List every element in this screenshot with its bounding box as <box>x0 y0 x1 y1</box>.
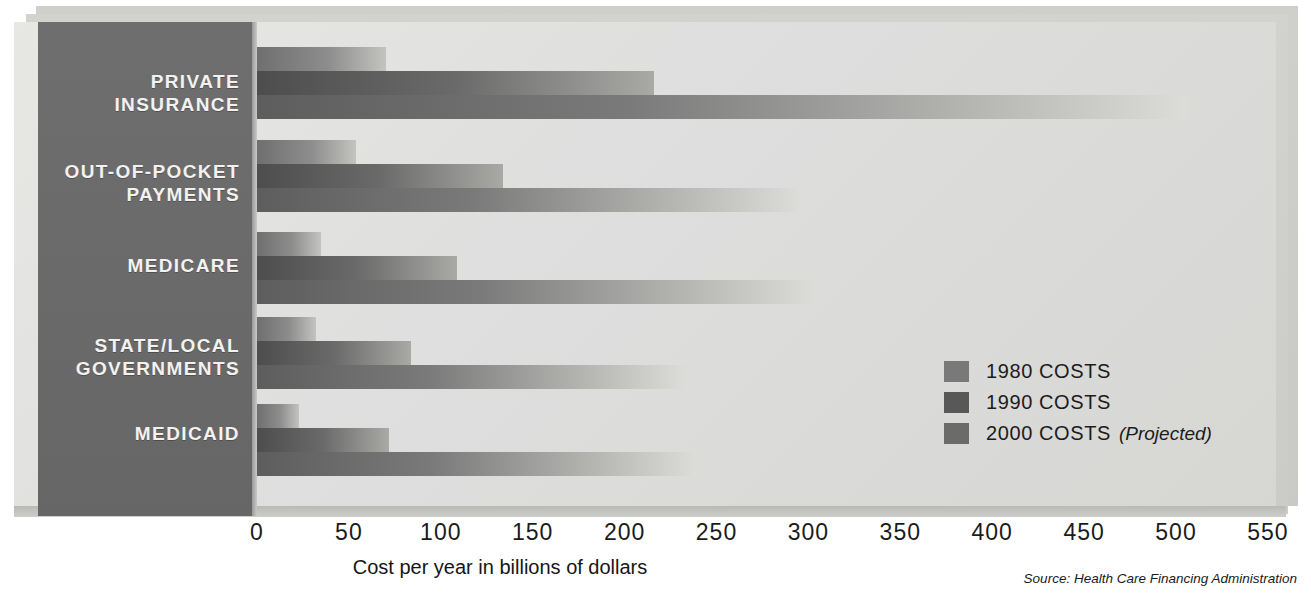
category-label-line2: INSURANCE <box>114 93 240 116</box>
legend-item-1980: 1980 COSTS <box>944 356 1212 387</box>
x-tick-400: 400 <box>972 519 1013 546</box>
x-tick-250: 250 <box>696 519 737 546</box>
category-label-0: PRIVATEINSURANCE <box>114 70 240 116</box>
legend-label-2000: 2000 COSTS <box>986 422 1111 445</box>
category-label-line1: MEDICARE <box>127 254 240 277</box>
category-label-line2: PAYMENTS <box>65 183 240 206</box>
bar-3-1 <box>257 341 411 365</box>
bar-2-1 <box>257 256 457 280</box>
x-tick-300: 300 <box>788 519 829 546</box>
bar-1-2 <box>257 188 799 212</box>
x-tick-150: 150 <box>512 519 553 546</box>
bar-4-0 <box>257 404 299 428</box>
x-tick-500: 500 <box>1155 519 1196 546</box>
legend-swatch-1990-icon <box>944 392 969 413</box>
x-axis-title: Cost per year in billions of dollars <box>0 556 1000 579</box>
bar-1-1 <box>257 164 503 188</box>
bar-3-2 <box>257 365 685 389</box>
category-label-4: MEDICAID <box>135 422 240 445</box>
x-tick-0: 0 <box>250 519 264 546</box>
chart-container: PRIVATEINSURANCEOUT-OF-POCKETPAYMENTSMED… <box>0 0 1311 607</box>
legend-item-1990: 1990 COSTS <box>944 387 1212 418</box>
category-label-2: MEDICARE <box>127 254 240 277</box>
bar-2-2 <box>257 280 814 304</box>
category-label-line1: OUT-OF-POCKET <box>65 160 240 183</box>
legend-note-projected: (Projected) <box>1119 423 1212 445</box>
legend-swatch-2000-icon <box>944 423 969 444</box>
bar-4-2 <box>257 452 696 476</box>
x-tick-450: 450 <box>1063 519 1104 546</box>
bar-3-0 <box>257 317 316 341</box>
x-axis: 050100150200250300350400450500550 <box>0 519 1311 553</box>
legend-item-2000: 2000 COSTS (Projected) <box>944 418 1212 449</box>
source-note: Source: Health Care Financing Administra… <box>1024 571 1297 586</box>
legend-label-1990: 1990 COSTS <box>986 391 1111 414</box>
category-label-line2: GOVERNMENTS <box>76 357 240 380</box>
legend-swatch-1980-icon <box>944 361 969 382</box>
legend: 1980 COSTS 1990 COSTS 2000 COSTS (Projec… <box>944 356 1212 449</box>
bar-0-1 <box>257 71 654 95</box>
category-label-panel: PRIVATEINSURANCEOUT-OF-POCKETPAYMENTSMED… <box>38 22 252 516</box>
bar-0-2 <box>257 95 1187 119</box>
category-label-line1: STATE/LOCAL <box>76 334 240 357</box>
bar-4-1 <box>257 428 389 452</box>
x-tick-200: 200 <box>604 519 645 546</box>
x-tick-100: 100 <box>420 519 461 546</box>
x-tick-350: 350 <box>880 519 921 546</box>
bar-1-0 <box>257 140 356 164</box>
legend-label-1980: 1980 COSTS <box>986 360 1111 383</box>
bar-0-0 <box>257 47 386 71</box>
category-label-1: OUT-OF-POCKETPAYMENTS <box>65 160 240 206</box>
category-label-line1: PRIVATE <box>114 70 240 93</box>
bar-2-0 <box>257 232 321 256</box>
x-tick-550: 550 <box>1247 519 1288 546</box>
x-tick-50: 50 <box>335 519 363 546</box>
category-label-3: STATE/LOCALGOVERNMENTS <box>76 334 240 380</box>
category-label-line1: MEDICAID <box>135 422 240 445</box>
